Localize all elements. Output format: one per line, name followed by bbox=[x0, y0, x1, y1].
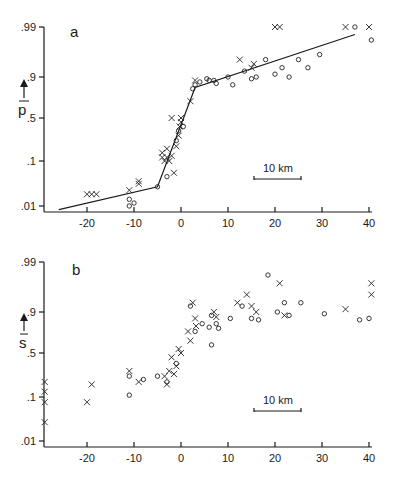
cross-marker bbox=[93, 191, 99, 197]
cross-marker bbox=[126, 368, 132, 374]
figure: .99.9.5.1.01-20-10010203040 a p 10 km .9… bbox=[0, 0, 396, 483]
cross-marker bbox=[249, 303, 255, 309]
circle-marker bbox=[216, 326, 220, 330]
cross-marker bbox=[42, 419, 48, 425]
circle-marker bbox=[256, 318, 260, 322]
x-tick-label: 0 bbox=[178, 452, 184, 464]
cross-marker bbox=[187, 338, 193, 344]
cross-marker bbox=[244, 292, 250, 298]
circle-marker bbox=[240, 304, 244, 308]
y-tick-label: .01 bbox=[21, 200, 36, 212]
circle-marker bbox=[282, 301, 286, 305]
cross-marker bbox=[343, 24, 349, 30]
y-axis-symbol-b: s bbox=[19, 334, 27, 351]
y-tick-label: .1 bbox=[27, 155, 36, 167]
circle-marker bbox=[287, 75, 291, 79]
x-tick-label: 10 bbox=[222, 452, 234, 464]
circle-marker bbox=[141, 377, 145, 381]
y-tick-label: .5 bbox=[27, 112, 36, 124]
cross-marker bbox=[277, 280, 283, 286]
circle-marker bbox=[280, 66, 284, 70]
circle-marker bbox=[193, 329, 197, 333]
y-tick-label: .01 bbox=[21, 435, 36, 447]
circle-marker bbox=[322, 312, 326, 316]
cross-marker bbox=[193, 323, 199, 329]
cross-marker bbox=[169, 354, 175, 360]
circle-marker bbox=[174, 361, 178, 365]
y-tick-label: .5 bbox=[27, 347, 36, 359]
circle-marker bbox=[367, 316, 371, 320]
cross-marker bbox=[42, 399, 48, 405]
scale-bar-label-a: 10 km bbox=[263, 162, 293, 174]
cross-marker bbox=[164, 146, 170, 152]
circle-marker bbox=[209, 343, 213, 347]
circle-marker bbox=[132, 201, 136, 205]
circle-marker bbox=[266, 273, 270, 277]
x-tick-label: 30 bbox=[316, 452, 328, 464]
circle-marker bbox=[306, 66, 310, 70]
circle-marker bbox=[165, 380, 169, 384]
cross-marker bbox=[173, 143, 179, 149]
y-axis-label-b: s bbox=[19, 313, 28, 351]
cross-marker bbox=[171, 170, 177, 176]
x-tick-label: -20 bbox=[79, 217, 95, 229]
circle-marker bbox=[369, 38, 373, 42]
cross-marker bbox=[277, 24, 283, 30]
circle-marker bbox=[299, 301, 303, 305]
circle-marker bbox=[198, 80, 202, 84]
cross-marker bbox=[185, 328, 191, 334]
cross-marker bbox=[84, 399, 90, 405]
fit-line-a bbox=[59, 35, 355, 210]
cross-marker bbox=[192, 315, 198, 321]
x-tick-label: -10 bbox=[126, 217, 142, 229]
y-tick-label: .99 bbox=[21, 21, 36, 33]
circle-marker bbox=[207, 325, 211, 329]
cross-marker bbox=[253, 309, 259, 315]
scale-bar-b: 10 km bbox=[254, 394, 301, 412]
circle-marker bbox=[357, 318, 361, 322]
x-tick-label: 20 bbox=[269, 452, 281, 464]
cross-marker bbox=[368, 280, 374, 286]
circle-marker bbox=[249, 316, 253, 320]
y-tick-label: .1 bbox=[27, 391, 36, 403]
x-tick-label: 40 bbox=[363, 452, 375, 464]
circle-marker bbox=[193, 83, 197, 87]
x-tick-label: 20 bbox=[269, 217, 281, 229]
circle-marker bbox=[200, 322, 204, 326]
circle-marker bbox=[317, 52, 321, 56]
circle-marker bbox=[275, 310, 279, 314]
x-tick-label: 0 bbox=[178, 217, 184, 229]
cross-marker bbox=[126, 187, 132, 193]
circle-marker bbox=[287, 313, 291, 317]
circle-marker bbox=[214, 81, 218, 85]
cross-marker bbox=[366, 24, 372, 30]
y-tick-label: .9 bbox=[27, 71, 36, 83]
x-tick-label: 10 bbox=[222, 217, 234, 229]
scale-bar-label-b: 10 km bbox=[263, 394, 293, 406]
cross-marker bbox=[169, 115, 175, 121]
circle-marker bbox=[165, 174, 169, 178]
circle-marker bbox=[263, 57, 267, 61]
circle-marker bbox=[127, 393, 131, 397]
y-tick-label: .99 bbox=[21, 256, 36, 268]
cross-marker bbox=[42, 389, 48, 395]
cross-marker bbox=[89, 381, 95, 387]
panel-a: .99.9.5.1.01-20-10010203040 a p 10 km bbox=[18, 21, 375, 229]
data-points-b bbox=[42, 273, 375, 425]
cross-marker bbox=[42, 379, 48, 385]
cross-marker bbox=[251, 61, 257, 67]
circle-marker bbox=[228, 316, 232, 320]
scale-bar-a: 10 km bbox=[254, 162, 301, 180]
data-points-a bbox=[84, 24, 374, 208]
y-axis-symbol-a: p bbox=[18, 101, 26, 118]
circle-marker bbox=[273, 72, 277, 76]
x-tick-label: -10 bbox=[126, 452, 142, 464]
cross-marker bbox=[234, 300, 240, 306]
circle-marker bbox=[127, 204, 131, 208]
cross-marker bbox=[368, 292, 374, 298]
x-tick-label: 30 bbox=[316, 217, 328, 229]
cross-marker bbox=[237, 57, 243, 63]
circle-marker bbox=[353, 25, 357, 29]
x-tick-label: -20 bbox=[79, 452, 95, 464]
panel-label-a: a bbox=[70, 23, 79, 40]
